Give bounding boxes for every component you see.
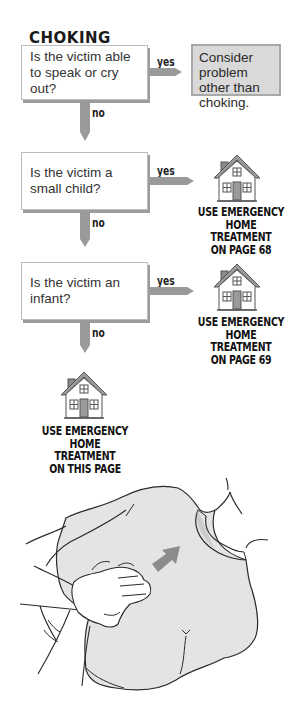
yes-arrow-2 xyxy=(149,176,195,186)
caption-line: HOME TREATMENT xyxy=(196,219,286,244)
yes-arrow-3 xyxy=(149,286,195,296)
caption-line: ON PAGE 69 xyxy=(196,354,286,367)
home-treatment-caption-69: USE EMERGENCY HOME TREATMENT ON PAGE 69 xyxy=(196,316,286,366)
outcome-text: Consider problem other than choking. xyxy=(199,50,260,110)
question-box-1: Is the victim able to speak or cry out? xyxy=(21,45,148,100)
no-label-3: no xyxy=(92,326,105,340)
question-text-3: Is the victim an infant? xyxy=(30,275,147,307)
question-box-2: Is the victim a small child? xyxy=(21,152,148,210)
caption-line: ON PAGE 68 xyxy=(196,244,286,257)
no-arrow-2 xyxy=(79,212,91,248)
no-arrow-1 xyxy=(79,102,91,142)
question-text-2: Is the victim a small child? xyxy=(30,165,147,197)
question-box-3: Is the victim an infant? xyxy=(21,262,148,320)
caption-line: USE EMERGENCY xyxy=(196,206,286,219)
house-icon xyxy=(58,369,110,421)
caption-line: USE EMERGENCY xyxy=(40,425,130,438)
no-label-1: no xyxy=(92,106,105,120)
no-arrow-3 xyxy=(79,322,91,354)
home-treatment-caption-this-page: USE EMERGENCY HOME TREATMENT ON THIS PAG… xyxy=(40,425,130,475)
yes-arrow-1 xyxy=(149,67,183,77)
question-text-1: Is the victim able to speak or cry out? xyxy=(30,49,147,97)
caption-line: HOME TREATMENT xyxy=(196,329,286,354)
outcome-box-other-problem: Consider problem other than choking. xyxy=(191,44,281,96)
caption-line: HOME TREATMENT xyxy=(40,438,130,463)
house-icon xyxy=(211,261,263,313)
back-blow-illustration xyxy=(0,470,296,704)
home-treatment-caption-68: USE EMERGENCY HOME TREATMENT ON PAGE 68 xyxy=(196,206,286,256)
caption-line: USE EMERGENCY xyxy=(196,316,286,329)
no-label-2: no xyxy=(92,216,105,230)
house-icon xyxy=(211,152,263,204)
